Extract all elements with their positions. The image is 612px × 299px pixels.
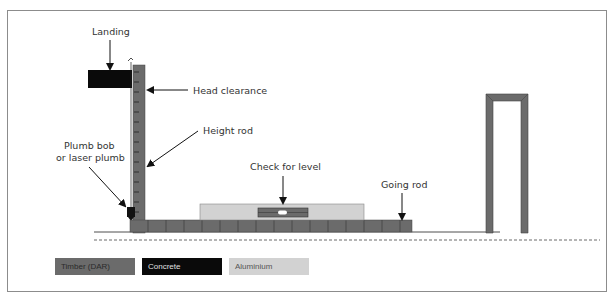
legend-concrete: Concrete: [142, 258, 222, 275]
plumb-arrow: [89, 167, 125, 206]
landing-slab: [88, 70, 132, 88]
label-height-rod: Height rod: [203, 125, 253, 136]
label-landing: Landing: [92, 26, 130, 37]
door-frame: [486, 94, 528, 233]
legend-timber: Timber (DAR): [55, 258, 135, 275]
stair-measurement-diagram: Landing Head clearance Height rod Plumb …: [0, 0, 612, 299]
label-check-level: Check for level: [250, 161, 321, 172]
plumb-hook: [128, 58, 133, 61]
label-going-rod: Going rod: [381, 179, 427, 190]
legend-aluminium: Aluminium: [229, 258, 309, 275]
label-head-clearance: Head clearance: [193, 85, 267, 96]
label-plumb-line1: Plumb bob: [64, 140, 115, 151]
plumb-bob: [127, 207, 135, 217]
going-rod: [130, 220, 412, 232]
label-plumb-line2: or laser plumb: [56, 152, 125, 163]
spirit-level-bubble: [278, 211, 287, 215]
height-rod-arrow: [148, 131, 198, 166]
